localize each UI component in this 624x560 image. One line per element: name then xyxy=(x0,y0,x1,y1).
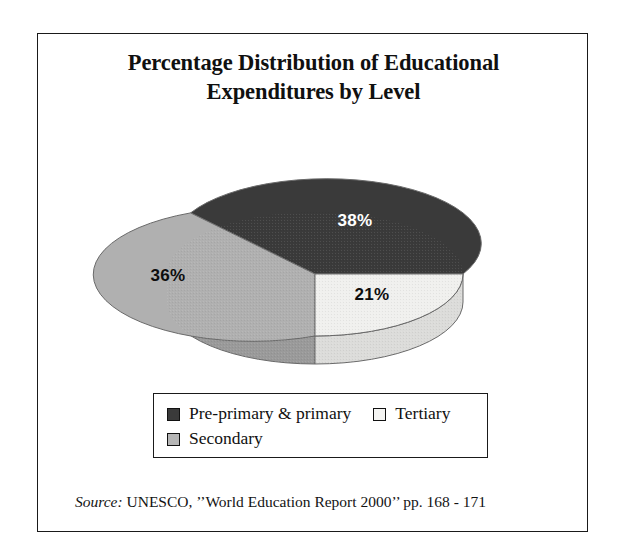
legend-label-tertiary: Tertiary xyxy=(395,404,450,423)
source-note: Source: UNESCO, ’’World Education Report… xyxy=(75,492,575,511)
source-label: Source: xyxy=(75,493,123,510)
legend-swatch-light-icon xyxy=(373,408,386,421)
legend-row-2: Secondary xyxy=(167,426,477,451)
legend-label-pre-primary-and-primary: Pre-primary & primary xyxy=(189,404,351,423)
legend-label-secondary: Secondary xyxy=(189,429,263,448)
legend-item-tertiary[interactable]: Tertiary xyxy=(373,404,450,423)
pie-label-primary: 38% xyxy=(325,211,385,231)
pie-chart-plot-area: 38% 36% 21% xyxy=(38,109,589,399)
pie-texture-overlay xyxy=(167,212,463,336)
pie-label-secondary: 36% xyxy=(138,266,198,286)
figure-frame: Percentage Distribution of Educational E… xyxy=(37,33,588,532)
legend-item-secondary[interactable]: Secondary xyxy=(167,429,263,448)
source-text: UNESCO, ’’World Education Report 2000’’ … xyxy=(123,493,486,510)
legend-swatch-dark-icon xyxy=(167,408,180,421)
chart-legend: Pre-primary & primary Tertiary Secondary xyxy=(153,393,488,458)
title-line-2: Expenditures by Level xyxy=(38,77,589,106)
legend-row-1: Pre-primary & primary Tertiary xyxy=(167,401,477,426)
legend-swatch-medium-icon xyxy=(167,433,180,446)
pie-label-tertiary: 21% xyxy=(342,285,402,305)
pie-chart-svg xyxy=(38,109,589,399)
title-line-1: Percentage Distribution of Educational xyxy=(38,48,589,77)
legend-rows: Pre-primary & primary Tertiary Secondary xyxy=(167,401,477,451)
page-title: Percentage Distribution of Educational E… xyxy=(38,48,589,106)
legend-item-pre-primary-and-primary[interactable]: Pre-primary & primary xyxy=(167,404,351,423)
